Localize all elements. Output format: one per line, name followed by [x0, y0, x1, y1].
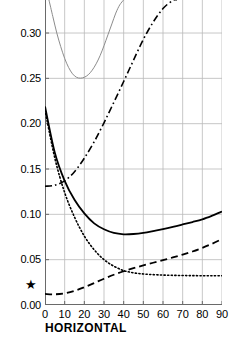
series-grey-u-curve [49, 0, 124, 78]
y-tick-label: 0.20 [3, 118, 41, 129]
y-tick-label: 0.30 [3, 28, 41, 39]
data-series [45, 0, 222, 294]
series-canvas [45, 0, 222, 305]
series-dashed-curve [45, 239, 222, 294]
plot-area [45, 0, 222, 305]
x-axis-title: HORIZONTAL [45, 321, 127, 335]
series-solid-black-curve [45, 106, 222, 234]
y-tick-label: 0.15 [3, 164, 41, 175]
chart-figure: 0.000.050.100.150.200.250.30 ★ 010203040… [0, 0, 237, 353]
y-tick-label: 0.05 [3, 254, 41, 265]
plot-canvas [45, 0, 222, 305]
axis-spines [45, 0, 222, 305]
y-tick-label: 0.25 [3, 73, 41, 84]
y-tick-label: 0.10 [3, 209, 41, 220]
grid-lines [45, 0, 222, 305]
clipped-caption [45, 343, 237, 353]
y-axis-labels: 0.000.050.100.150.200.250.30 [0, 0, 41, 310]
x-tick-label: 90 [211, 308, 233, 320]
star-marker: ★ [23, 278, 39, 291]
